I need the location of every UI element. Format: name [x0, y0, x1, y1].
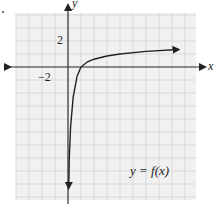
y-axis-label: y: [72, 0, 77, 9]
x-tick-label: −2: [38, 71, 51, 83]
function-graph: [0, 0, 217, 207]
y-tick-label: 2: [57, 34, 63, 46]
corner-dot: [2, 11, 4, 13]
function-label: y = f(x): [130, 164, 169, 177]
x-axis-label: x: [208, 60, 213, 72]
